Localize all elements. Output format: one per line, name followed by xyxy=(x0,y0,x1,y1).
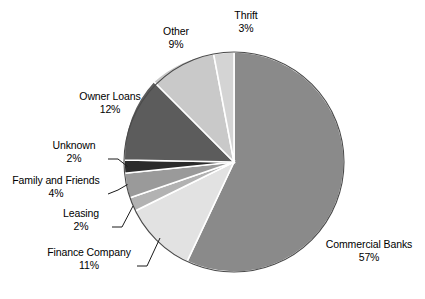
slice-label-owner-loans-value: 12% xyxy=(62,103,158,116)
slice-label-family-and-friends-name: Family and Friends xyxy=(6,174,106,187)
slice-label-leasing: Leasing 2% xyxy=(52,207,110,232)
slice-label-other-name: Other xyxy=(148,25,204,38)
pie-chart-figure: Thrift 3% Other 9% Owner Loans 12% Unkno… xyxy=(0,0,425,299)
slice-label-other-value: 9% xyxy=(148,38,204,51)
slice-label-leasing-name: Leasing xyxy=(52,207,110,220)
slice-label-unknown-name: Unknown xyxy=(42,139,106,152)
slice-label-finance-company-value: 11% xyxy=(42,259,136,272)
slice-label-thrift-value: 3% xyxy=(218,22,274,35)
leader-line-leasing xyxy=(112,206,133,227)
slice-label-finance-company: Finance Company 11% xyxy=(42,246,136,271)
leader-line-family-and-friends xyxy=(108,185,128,195)
slice-label-thrift: Thrift 3% xyxy=(218,9,274,34)
pie-slices xyxy=(124,52,344,272)
slice-label-owner-loans: Owner Loans 12% xyxy=(62,90,158,115)
slice-label-family-and-friends: Family and Friends 4% xyxy=(6,174,106,199)
slice-label-finance-company-name: Finance Company xyxy=(42,246,136,259)
slice-label-commercial-banks: Commercial Banks 57% xyxy=(318,238,420,263)
slice-label-unknown: Unknown 2% xyxy=(42,139,106,164)
slice-label-owner-loans-name: Owner Loans xyxy=(62,90,158,103)
slice-label-other: Other 9% xyxy=(148,25,204,50)
slice-label-unknown-value: 2% xyxy=(42,152,106,165)
slice-label-thrift-name: Thrift xyxy=(218,9,274,22)
slice-label-leasing-value: 2% xyxy=(52,220,110,233)
slice-label-commercial-banks-value: 57% xyxy=(318,251,420,264)
slice-label-family-and-friends-value: 4% xyxy=(6,187,106,200)
slice-label-commercial-banks-name: Commercial Banks xyxy=(318,238,420,251)
